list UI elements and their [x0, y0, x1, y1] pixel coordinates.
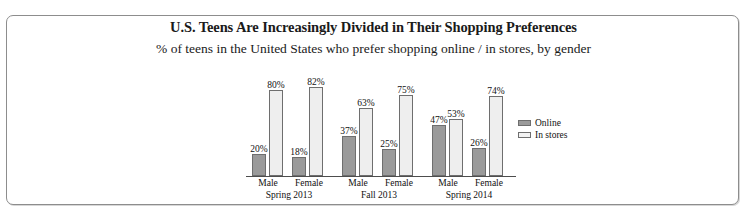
legend-item-online[interactable]: Online	[518, 118, 567, 128]
axis-group-label: Fall 2013	[336, 190, 422, 201]
bar-in-stores[interactable]: 80%	[269, 90, 283, 176]
axis-tick-female: Female	[286, 178, 332, 189]
bar-value-label: 75%	[397, 85, 414, 95]
bar-value-label: 74%	[487, 86, 504, 96]
bar-value-label: 26%	[470, 138, 487, 148]
bar-in-stores[interactable]: 75%	[399, 95, 413, 176]
bar-value-label: 53%	[447, 109, 464, 119]
axis-group-label: Spring 2014	[426, 190, 512, 201]
bar-in-stores[interactable]: 82%	[309, 87, 323, 176]
axis-tick-male: Male	[426, 178, 470, 189]
legend-swatch-icon	[518, 132, 531, 138]
axis-group-label: Spring 2013	[246, 190, 332, 201]
bar-value-label: 25%	[380, 139, 397, 149]
chart-subtitle: % of teens in the United States who pref…	[0, 41, 747, 57]
bar-online[interactable]: 25%	[382, 149, 396, 176]
bar-value-label: 37%	[340, 126, 357, 136]
legend-label: In stores	[535, 130, 567, 140]
bar-online[interactable]: 18%	[292, 157, 306, 176]
page-title: U.S. Teens Are Increasingly Divided in T…	[0, 19, 747, 36]
bar-value-label: 47%	[430, 115, 447, 125]
legend-item-in-stores[interactable]: In stores	[518, 130, 567, 140]
bar-online[interactable]: 26%	[472, 148, 486, 176]
bar-in-stores[interactable]: 63%	[359, 108, 373, 176]
legend-label: Online	[535, 118, 561, 128]
chart-legend: Online In stores	[518, 118, 567, 142]
bar-value-label: 18%	[290, 147, 307, 157]
bar-in-stores[interactable]: 53%	[449, 119, 463, 176]
bar-value-label: 63%	[357, 98, 374, 108]
bar-value-label: 82%	[307, 77, 324, 87]
bar-value-label: 20%	[250, 144, 267, 154]
legend-swatch-icon	[518, 120, 531, 126]
x-axis-line	[246, 176, 516, 177]
bar-online[interactable]: 20%	[252, 154, 266, 176]
axis-tick-male: Male	[336, 178, 380, 189]
x-axis-tick-labels: Male Female Spring 2013 Male Female Fall…	[246, 178, 516, 204]
bar-online[interactable]: 37%	[342, 136, 356, 176]
bar-online[interactable]: 47%	[432, 125, 446, 176]
bar-in-stores[interactable]: 74%	[489, 96, 503, 176]
bar-value-label: 80%	[267, 80, 284, 90]
plot-area: 20% 80% 18% 82% 37% 63% 25%	[246, 68, 516, 176]
axis-tick-male: Male	[246, 178, 290, 189]
axis-tick-female: Female	[376, 178, 422, 189]
axis-tick-female: Female	[466, 178, 512, 189]
